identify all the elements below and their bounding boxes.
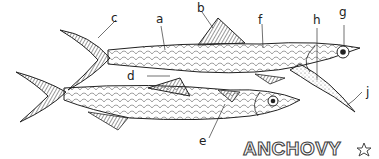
label-e: e xyxy=(199,134,206,148)
diagram-title: ANCHOVY xyxy=(243,138,342,159)
star-outline-icon xyxy=(357,143,371,156)
label-a: a xyxy=(156,12,163,26)
small-anchovy xyxy=(16,72,300,130)
pelvic-fin-large xyxy=(255,74,285,84)
label-g: g xyxy=(339,5,347,19)
label-b: b xyxy=(197,1,205,15)
dorsal-fin-large xyxy=(198,18,245,45)
label-h: h xyxy=(313,13,321,27)
label-j: j xyxy=(365,85,369,99)
label-c: c xyxy=(111,11,118,25)
caudal-fin-small xyxy=(16,72,66,122)
label-d: d xyxy=(127,69,135,83)
anchovy-diagram: a b c d e f g h j ANCHOVY xyxy=(0,0,379,159)
lower-jaw xyxy=(290,64,355,112)
body-large xyxy=(108,43,360,73)
caudal-fin-large xyxy=(60,30,110,90)
